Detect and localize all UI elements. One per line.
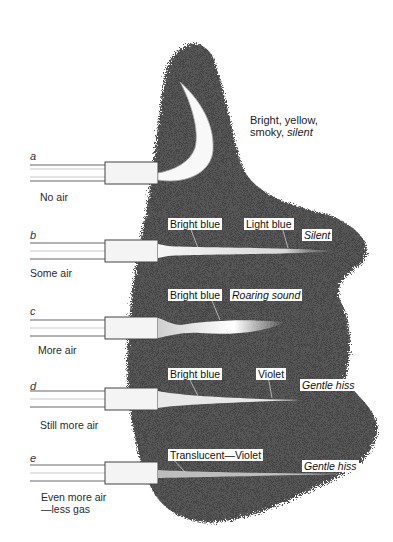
label-violet-d: Violet (256, 368, 286, 380)
description-line2-italic: silent (287, 126, 313, 138)
caption-e-line1: Even more air (41, 491, 106, 503)
burner-letter-e: e (30, 452, 36, 464)
label-bright-blue-c: Bright blue (168, 289, 222, 301)
description-line2: smoky, (250, 126, 287, 138)
burner-caption-b: Some air (30, 267, 72, 279)
label-silent-b: Silent (302, 229, 332, 241)
burner-letter-b: b (30, 229, 36, 241)
caption-e-line2: —less gas (41, 503, 106, 515)
label-translucent-violet-e: Translucent—Violet (168, 449, 263, 461)
label-light-blue-b: Light blue (244, 218, 294, 230)
burner-caption-e: Even more air —less gas (41, 491, 106, 515)
label-bright-blue-b: Bright blue (168, 218, 222, 230)
label-roaring-sound-c: Roaring sound (230, 289, 302, 301)
burner-letter-c: c (30, 305, 36, 317)
burner-letter-a: a (30, 150, 36, 162)
label-gentle-hiss-d: Gentle hiss (300, 379, 357, 391)
label-gentle-hiss-e: Gentle hiss (302, 460, 359, 472)
burner-caption-c: More air (38, 344, 77, 356)
burner-letter-d: d (30, 380, 36, 392)
description-line1: Bright, yellow, (250, 114, 318, 126)
label-bright-blue-d: Bright blue (168, 368, 222, 380)
burner-caption-d: Still more air (40, 419, 98, 431)
flame-a-description: Bright, yellow, smoky, silent (250, 114, 318, 138)
burner-caption-a: No air (40, 191, 68, 203)
